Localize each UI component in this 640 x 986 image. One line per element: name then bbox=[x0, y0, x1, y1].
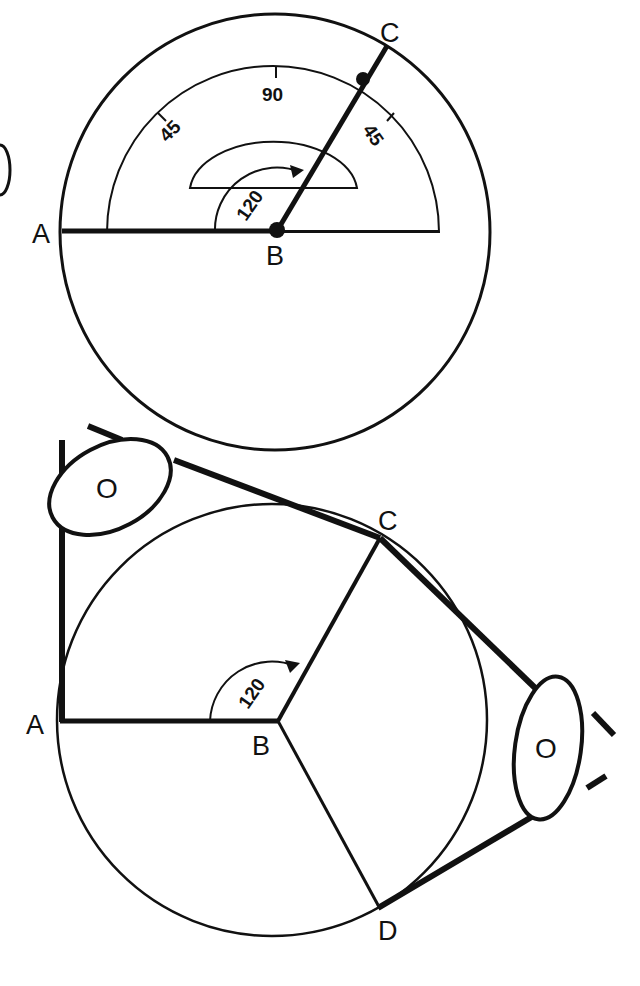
arrowhead-icon bbox=[290, 165, 304, 178]
label-C-bottom: C bbox=[378, 506, 398, 536]
scale-90: 90 bbox=[262, 84, 283, 105]
point-B-dot bbox=[269, 222, 285, 238]
scale-45-left: 45 bbox=[155, 116, 185, 146]
label-A-bottom: A bbox=[26, 710, 44, 740]
belt-end-right bbox=[593, 713, 614, 735]
belt-top bbox=[174, 460, 380, 538]
bottom-figure: O O 120 A B C D bbox=[26, 419, 614, 946]
protractor-inner bbox=[190, 142, 357, 188]
diagram-canvas: A B C 90 45 45 120 O O 120 A B C D bbox=[0, 0, 640, 986]
angle-label-120: 120 bbox=[232, 186, 267, 224]
radius-BD bbox=[278, 721, 378, 905]
top-figure: A B C 90 45 45 120 bbox=[32, 14, 490, 450]
pulley-right-label: O bbox=[535, 733, 557, 764]
label-A: A bbox=[32, 219, 50, 249]
belt-end-top bbox=[88, 426, 122, 440]
scale-45-right: 45 bbox=[359, 120, 389, 150]
angle-label-120-bottom: 120 bbox=[234, 674, 269, 712]
point-C-dot bbox=[356, 72, 370, 86]
belt-end-right2 bbox=[587, 776, 606, 788]
pulley-left-label: O bbox=[96, 473, 118, 504]
arrowhead-icon-bottom bbox=[285, 660, 300, 673]
label-D-bottom: D bbox=[378, 916, 398, 946]
label-C: C bbox=[380, 18, 400, 48]
belt-right bbox=[380, 538, 560, 712]
radius-BC bbox=[278, 538, 380, 721]
label-B: B bbox=[266, 241, 284, 271]
label-B-bottom: B bbox=[252, 731, 270, 761]
partial-circle-edge bbox=[0, 145, 10, 195]
